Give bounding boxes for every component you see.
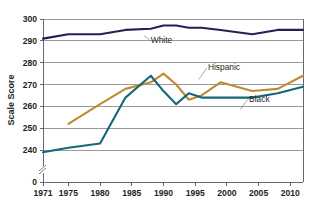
y-tick-label: 240 <box>23 145 38 155</box>
series-label-leader-black <box>240 99 248 110</box>
y-tick-label: 300 <box>23 14 38 24</box>
y-tick-label: 260 <box>23 101 38 111</box>
x-tick-label: 1990 <box>154 188 173 198</box>
x-tick-label: 2010 <box>281 188 300 198</box>
series-line-white <box>43 26 303 39</box>
y-tick-label-zero: 0 <box>32 177 37 187</box>
x-tick-label: 1985 <box>122 188 141 198</box>
axis-break-mark <box>39 165 46 174</box>
y-axis-title: Scale Score <box>6 74 16 125</box>
x-tick-label: 1971 <box>33 188 52 198</box>
series-label-hispanic: Hispanic <box>208 62 240 72</box>
chart-container: 3002902802702602502400 19711975198019851… <box>0 0 319 215</box>
x-tick-label: 1995 <box>186 188 205 198</box>
x-tick-label: 2005 <box>249 188 268 198</box>
gridlines-group <box>43 19 303 150</box>
x-tick-label: 2000 <box>217 188 236 198</box>
y-tick-label: 250 <box>23 123 38 133</box>
y-tick-label: 280 <box>23 58 38 68</box>
x-tick-label: 1980 <box>91 188 110 198</box>
x-tickmarks-group <box>43 182 290 186</box>
series-label-leader-hispanic <box>199 68 207 80</box>
x-tick-label: 1975 <box>59 188 78 198</box>
y-tick-labels-group: 3002902802702602502400 <box>23 14 38 187</box>
series-label-white: White <box>151 35 173 45</box>
y-tickmarks-group <box>40 19 44 182</box>
y-tick-label: 290 <box>23 36 38 46</box>
series-line-black <box>43 76 303 152</box>
series-label-black: Black <box>249 94 270 104</box>
series-label-leader-white <box>144 36 150 41</box>
x-tick-labels-group: 197119751980198519901995200020052010 <box>33 188 300 198</box>
series-lines-group <box>43 26 303 153</box>
line-chart: 3002902802702602502400 19711975198019851… <box>0 0 319 215</box>
y-tick-label: 270 <box>23 80 38 90</box>
